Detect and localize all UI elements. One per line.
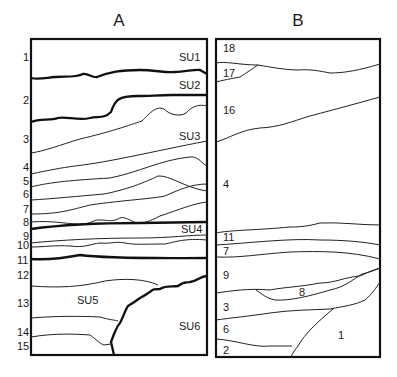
section-b-frame <box>216 39 380 357</box>
layer-boundary-line <box>216 62 380 73</box>
layer-number: 5 <box>23 175 29 187</box>
layer-number: 11 <box>17 254 28 266</box>
layer-number: 9 <box>223 269 229 281</box>
layer-boundary-line <box>31 334 111 345</box>
section-a-layer-numbers: 123456789101112131415 <box>17 51 29 352</box>
layer-number: 1 <box>338 329 344 341</box>
section-a-su-labels: SU1SU2SU3SU4SU5SU6 <box>77 51 202 332</box>
layer-boundary-line <box>31 316 118 321</box>
layer-number: 13 <box>17 297 29 309</box>
su-boundary-line <box>31 70 207 79</box>
layer-boundary-line <box>216 282 380 320</box>
layer-number: 6 <box>23 188 29 200</box>
layer-number: 17 <box>223 67 235 79</box>
layer-number: 12 <box>17 269 29 281</box>
layer-number: 6 <box>223 323 229 335</box>
layer-number: 3 <box>223 301 229 313</box>
layer-boundary-line <box>31 176 207 200</box>
layer-number: 15 <box>17 340 29 352</box>
layer-number: 8 <box>299 286 305 298</box>
section-b-title: B <box>292 11 303 30</box>
su-label: SU6 <box>179 320 200 332</box>
layer-boundary-line <box>31 279 158 287</box>
su-boundary-line <box>31 95 207 122</box>
layer-boundary-line <box>31 184 207 214</box>
layer-number: 4 <box>23 161 29 173</box>
section-a: A 123456789101112131415 SU1SU2SU3SU4SU5S… <box>17 11 207 355</box>
layer-boundary-line <box>291 309 333 357</box>
layer-number: 14 <box>17 326 29 338</box>
section-a-title: A <box>113 11 125 30</box>
layer-number: 11 <box>223 231 234 243</box>
layer-number: 2 <box>223 344 229 356</box>
su-boundary-line <box>111 276 207 355</box>
layer-boundary-line <box>216 223 380 233</box>
su-boundary-line <box>31 255 207 259</box>
layer-boundary-line <box>216 252 380 259</box>
layer-number: 18 <box>223 42 235 54</box>
section-b: B 1817164117983621 <box>216 11 380 357</box>
layer-boundary-line <box>31 202 207 224</box>
layer-number: 1 <box>23 51 29 63</box>
layer-number: 10 <box>17 239 29 251</box>
layer-boundary-line <box>216 268 380 293</box>
layer-number: 7 <box>23 203 29 215</box>
su-label: SU3 <box>179 130 200 142</box>
layer-boundary-line <box>256 268 380 300</box>
layer-boundary-line <box>216 240 380 245</box>
su-label: SU4 <box>181 223 202 235</box>
layer-boundary-line <box>31 235 207 243</box>
layer-number: 8 <box>23 216 29 228</box>
su-label: SU5 <box>77 294 98 306</box>
layer-number: 2 <box>23 94 29 106</box>
layer-number: 7 <box>223 245 229 257</box>
stratigraphic-sections-diagram: A 123456789101112131415 SU1SU2SU3SU4SU5S… <box>0 0 397 377</box>
layer-number: 4 <box>223 178 229 190</box>
layer-number: 16 <box>223 104 235 116</box>
su-label: SU1 <box>179 51 200 63</box>
su-label: SU2 <box>179 79 200 91</box>
section-b-layer-boundaries <box>216 62 380 357</box>
layer-number: 3 <box>23 133 29 145</box>
layer-boundary-line <box>216 97 380 142</box>
